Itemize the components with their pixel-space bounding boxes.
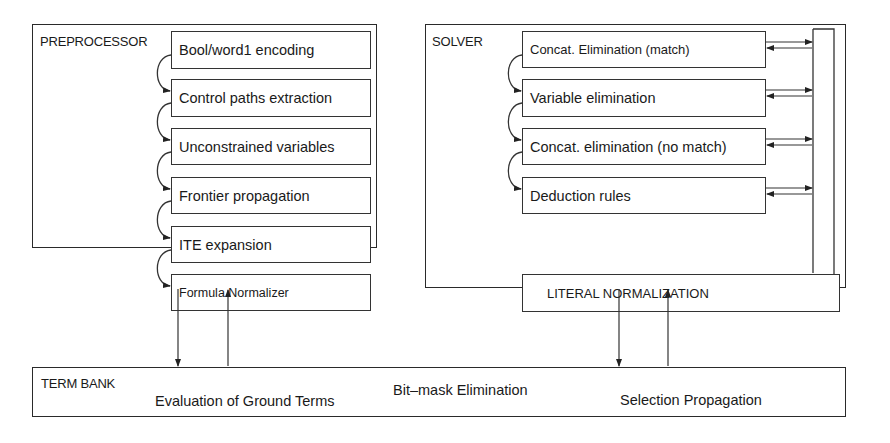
preprocessor-step-frontier-propagation: Frontier propagation [171, 177, 371, 214]
solver-step-variable-elimination: Variable elimination [522, 79, 766, 117]
preprocessor-step-ite-expansion: ITE expansion [171, 226, 371, 263]
flow-arrow-icon [157, 250, 171, 286]
solver-step-concat-elimination-match: Concat. Elimination (match) [522, 31, 766, 68]
step-label: Variable elimination [530, 90, 655, 106]
solver-title: SOLVER [432, 34, 483, 49]
step-label: Concat. elimination (no match) [530, 139, 727, 155]
preprocessor-step-control-paths: Control paths extraction [171, 79, 371, 117]
term-bank-item-evaluation-ground-terms: Evaluation of Ground Terms [155, 393, 334, 409]
step-label: Control paths extraction [179, 90, 332, 106]
step-label: ITE expansion [179, 237, 272, 253]
term-bank-item-selection-propagation: Selection Propagation [620, 392, 762, 408]
preprocessor-step-formula-normalizer: Formula Normalizer [171, 274, 371, 311]
literal-normalization-box: LITERAL NORMALIZATION [522, 274, 840, 312]
term-bank-title: TERM BANK [41, 376, 115, 391]
preprocessor-title: PREPROCESSOR [40, 34, 147, 49]
step-label: Deduction rules [530, 188, 631, 204]
step-label: Unconstrained variables [179, 139, 335, 155]
step-label: Concat. Elimination (match) [530, 42, 690, 57]
literal-normalization-label: LITERAL NORMALIZATION [547, 286, 709, 301]
solver-step-deduction-rules: Deduction rules [522, 177, 766, 214]
step-label: Frontier propagation [179, 188, 310, 204]
solver-step-concat-elimination-no-match: Concat. elimination (no match) [522, 128, 766, 165]
term-bank-item-bitmask-elimination: Bit–mask Elimination [393, 382, 528, 398]
step-label: Formula Normalizer [179, 286, 289, 300]
preprocessor-step-bool-word-encoding: Bool/word1 encoding [171, 31, 371, 69]
preprocessor-step-unconstrained-variables: Unconstrained variables [171, 128, 371, 165]
step-label: Bool/word1 encoding [179, 42, 314, 58]
